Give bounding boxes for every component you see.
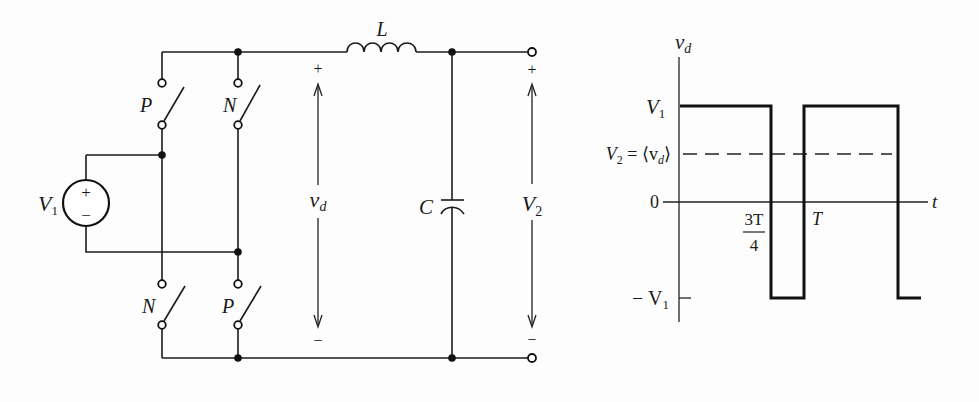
vd-minus: − bbox=[313, 332, 322, 349]
inductor-label: L bbox=[375, 18, 387, 40]
inductor-coil-icon bbox=[347, 43, 416, 52]
vd-plus: + bbox=[313, 60, 322, 77]
switch-terminal-icon bbox=[234, 280, 242, 288]
switch-terminal-icon bbox=[158, 321, 166, 329]
vd-voltage-indicator: + vd − bbox=[310, 60, 328, 349]
switch-blade-icon bbox=[240, 286, 261, 321]
switch-terminal-icon bbox=[158, 280, 166, 288]
switch-top-right: N bbox=[222, 79, 260, 129]
switch-label: N bbox=[222, 94, 238, 116]
vd-label: vd bbox=[310, 187, 328, 214]
switch-blade-icon bbox=[164, 286, 185, 321]
v2-minus: − bbox=[527, 331, 536, 348]
junction-dot bbox=[158, 151, 166, 159]
x-tick-3T4-denominator: 4 bbox=[750, 236, 759, 255]
vd-waveform-chart: vd t V1 V2 = ⟨vd⟩ 0 − V1 3T 4 T bbox=[606, 30, 938, 322]
output-terminal-icon bbox=[528, 354, 536, 362]
switch-label: N bbox=[141, 295, 157, 317]
x-axis-label: t bbox=[932, 191, 938, 212]
v2-voltage-indicator: + V2 − bbox=[522, 61, 542, 348]
output-terminal-icon bbox=[528, 48, 536, 56]
switch-terminal-icon bbox=[234, 321, 242, 329]
inductor: L bbox=[347, 18, 416, 52]
circuit-and-waveform: + − V1 P N N bbox=[0, 0, 979, 402]
source-label: V1 bbox=[38, 191, 58, 218]
switch-terminal-icon bbox=[234, 121, 242, 129]
v2-plus: + bbox=[527, 61, 536, 78]
switch-bottom-left: N bbox=[141, 280, 185, 329]
capacitor-label: C bbox=[419, 195, 434, 219]
y-tick-v1: V1 bbox=[646, 95, 665, 121]
y-tick-neg-v1: − V1 bbox=[632, 287, 669, 312]
h-bridge-circuit: + − V1 P N N bbox=[38, 18, 542, 362]
switch-top-left: P bbox=[139, 79, 184, 129]
switch-label: P bbox=[221, 295, 234, 317]
switch-terminal-icon bbox=[158, 79, 166, 87]
switch-label: P bbox=[139, 94, 152, 116]
switch-blade-icon bbox=[240, 85, 260, 121]
figure: + − V1 P N N bbox=[0, 0, 979, 402]
y-tick-average: V2 = ⟨vd⟩ bbox=[606, 144, 671, 167]
junction-dot bbox=[234, 248, 242, 256]
x-tick-T: T bbox=[812, 209, 824, 229]
y-axis-label: vd bbox=[675, 30, 692, 56]
y-tick-zero: 0 bbox=[650, 192, 659, 212]
switch-bottom-right: P bbox=[221, 280, 261, 329]
junction-dot bbox=[234, 48, 242, 56]
switch-terminal-icon bbox=[234, 79, 242, 87]
switch-blade-icon bbox=[164, 87, 184, 121]
capacitor: C bbox=[419, 52, 464, 358]
source-plus: + bbox=[81, 183, 91, 202]
x-tick-3T4-numerator: 3T bbox=[745, 210, 765, 229]
switch-terminal-icon bbox=[158, 121, 166, 129]
source-minus: − bbox=[81, 206, 91, 225]
junction-dot bbox=[234, 354, 242, 362]
v2-label: V2 bbox=[522, 191, 542, 219]
